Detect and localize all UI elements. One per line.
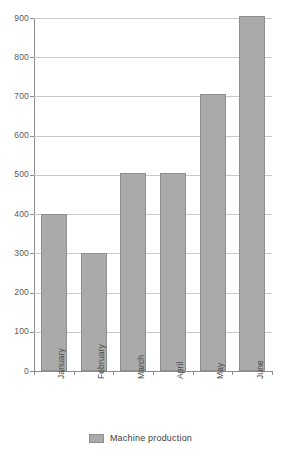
legend-swatch-machine-production: [89, 434, 104, 443]
bar-march: [120, 173, 146, 371]
y-tick-label-600: 600: [1, 131, 29, 140]
bar-april: [160, 173, 186, 371]
gridline-200: [34, 293, 272, 294]
y-tick-label-500: 500: [1, 170, 29, 179]
y-tick-label-400: 400: [1, 210, 29, 219]
gridline-300: [34, 253, 272, 254]
x-tick-mark-2: [113, 371, 114, 375]
x-tick-mark-1: [74, 371, 75, 375]
gridline-600: [34, 136, 272, 137]
gridline-900: [34, 18, 272, 19]
legend-label-machine-production: Machine production: [110, 433, 192, 443]
x-axis-label-april: April: [176, 361, 185, 379]
y-tick-label-200: 200: [1, 288, 29, 297]
x-axis-label-february: February: [97, 344, 106, 379]
gridline-800: [34, 57, 272, 58]
x-tick-mark-5: [232, 371, 233, 375]
chart-legend: Machine production: [0, 433, 281, 443]
bar-chart-figure: 9008007006005004003002001000 JanuaryFebr…: [0, 0, 281, 456]
x-axis-label-may: May: [216, 363, 225, 379]
gridline-100: [34, 332, 272, 333]
y-tick-label-300: 300: [1, 249, 29, 258]
x-tick-mark-4: [193, 371, 194, 375]
x-axis-label-march: March: [137, 355, 146, 379]
x-axis-label-january: January: [57, 348, 66, 379]
y-tick-label-700: 700: [1, 92, 29, 101]
x-tick-mark-6: [272, 371, 273, 375]
x-tick-mark-3: [153, 371, 154, 375]
x-axis-label-june: June: [256, 360, 265, 379]
plot-area: [34, 18, 272, 371]
gridline-700: [34, 96, 272, 97]
y-tick-label-0: 0: [1, 367, 29, 376]
y-tick-label-800: 800: [1, 53, 29, 62]
x-tick-mark-0: [34, 371, 35, 375]
bar-may: [200, 94, 226, 371]
gridline-500: [34, 175, 272, 176]
bar-june: [239, 16, 265, 371]
y-tick-label-900: 900: [1, 14, 29, 23]
y-tick-label-100: 100: [1, 327, 29, 336]
gridline-400: [34, 214, 272, 215]
